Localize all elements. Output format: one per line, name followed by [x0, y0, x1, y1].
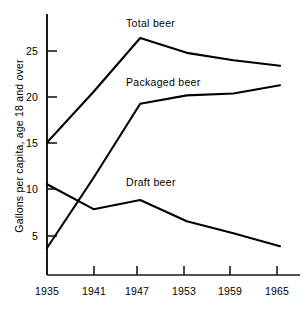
series-label-packaged-beer: Packaged beer — [126, 76, 201, 88]
series-label-total-beer: Total beer — [126, 17, 175, 29]
series-label-draft-beer: Draft beer — [126, 176, 176, 188]
series-line-total-beer — [47, 38, 280, 143]
y-tick-label-5: 5 — [14, 230, 38, 242]
y-tick-label-10: 10 — [14, 183, 38, 195]
x-tick-label-1947: 1947 — [117, 285, 157, 297]
y-tick-label-25: 25 — [14, 45, 38, 57]
y-tick-label-20: 20 — [14, 91, 38, 103]
x-tick-label-1941: 1941 — [74, 285, 114, 297]
y-tick-marks — [47, 51, 57, 236]
beer-consumption-line-chart: Gallons per capita, age 18 and over 25 2… — [0, 0, 306, 311]
x-tick-marks — [94, 266, 277, 275]
series-line-packaged-beer — [47, 85, 280, 248]
x-tick-label-1959: 1959 — [210, 285, 250, 297]
x-tick-label-1935: 1935 — [27, 285, 67, 297]
x-tick-label-1965: 1965 — [257, 285, 297, 297]
plot-area — [0, 0, 306, 311]
y-tick-label-15: 15 — [14, 137, 38, 149]
x-tick-label-1953: 1953 — [164, 285, 204, 297]
